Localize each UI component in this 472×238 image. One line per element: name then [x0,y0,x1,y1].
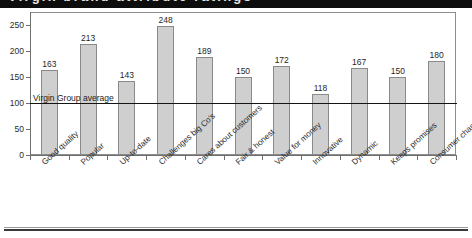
y-tick-mark [26,51,30,52]
y-tick-mark [26,77,30,78]
bar [196,57,213,155]
y-axis-line [30,12,31,156]
title-banner: Virgin brand attribute ratings [0,0,472,8]
y-tick-label: 250 [2,20,24,30]
bar [389,77,406,155]
bar [157,26,174,155]
bar-value-label: 118 [300,83,340,93]
bar-value-label: 180 [417,50,457,60]
y-tick-label: 100 [2,98,24,108]
bar-value-label: 143 [107,70,147,80]
x-tick-mark [417,156,418,160]
banner-title-text: Virgin brand attribute ratings [8,0,253,4]
x-tick-mark [69,156,70,160]
bar [41,70,58,155]
bar-value-label: 150 [378,66,418,76]
x-tick-mark [224,156,225,160]
bar-value-label: 189 [184,46,224,56]
bar-value-label: 172 [262,55,302,65]
bar [273,66,290,155]
bar-value-label: 150 [223,66,263,76]
x-tick-mark [340,156,341,160]
bar-value-label: 167 [339,57,379,67]
x-tick-mark [379,156,380,160]
y-tick-label: 150 [2,72,24,82]
y-tick-label: 0 [2,150,24,160]
bar-value-label: 248 [146,15,186,25]
y-tick-mark [26,25,30,26]
x-tick-mark [262,156,263,160]
bar [351,68,368,155]
x-tick-mark [301,156,302,160]
y-tick-label: 200 [2,46,24,56]
x-tick-mark [456,156,457,160]
bar [428,61,445,155]
y-tick-mark [26,129,30,130]
x-tick-mark [146,156,147,160]
bar [118,81,135,155]
footer-rule-thick [4,229,468,231]
y-tick-label: 50 [2,124,24,134]
footer-rule-thin [4,227,468,228]
average-reference-line [30,103,457,104]
chart-page: Virgin brand attribute ratings 050100150… [0,0,472,238]
x-tick-mark [107,156,108,160]
bar-value-label: 163 [29,59,69,69]
x-tick-mark [185,156,186,160]
x-tick-mark [30,156,31,160]
bar-value-label: 213 [68,33,108,43]
average-reference-label: Virgin Group average [33,93,114,103]
